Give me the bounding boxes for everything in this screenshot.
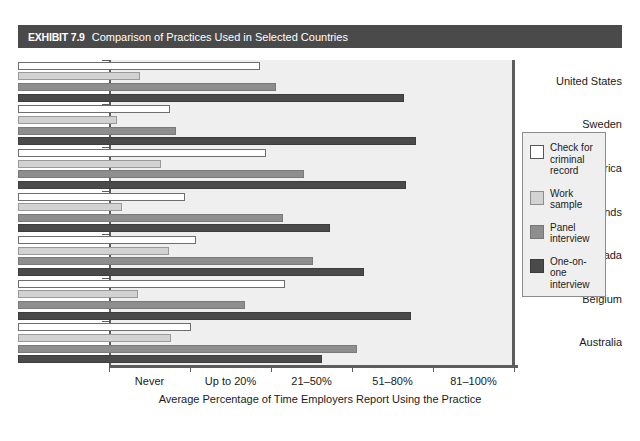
bar (18, 170, 304, 178)
exhibit-page: EXHIBIT 7.9 Comparison of Practices Used… (0, 0, 640, 441)
bar (18, 83, 276, 91)
x-axis-tick-label: 21–50% (271, 375, 352, 387)
bar (18, 355, 322, 363)
legend-swatch-icon (530, 259, 544, 273)
exhibit-number: EXHIBIT 7.9 (28, 31, 85, 43)
x-axis-tick (514, 365, 515, 372)
y-axis-label: Sweden (534, 118, 622, 130)
y-axis-tick (102, 234, 109, 235)
y-axis-tick (102, 278, 109, 279)
legend-item: Check for criminal record (530, 142, 599, 177)
bar (18, 214, 283, 222)
bar (18, 257, 313, 265)
exhibit-caption: Comparison of Practices Used in Selected… (92, 31, 348, 43)
bar (18, 137, 416, 145)
legend-label: Work sample (550, 188, 599, 211)
legend-item: One-on-one interview (530, 256, 599, 291)
bar-group (18, 234, 423, 278)
chart-area: United StatesSwedenSouth AfricaNetherlan… (18, 48, 622, 417)
x-axis-tick (109, 365, 110, 372)
x-axis-tick-label: 81–100% (433, 375, 514, 387)
bar-group (18, 60, 423, 104)
bar-group (18, 147, 423, 191)
y-axis-tick (102, 104, 109, 105)
bar (18, 116, 117, 124)
legend-item: Work sample (530, 188, 599, 211)
chart-legend: Check for criminal recordWork samplePane… (522, 132, 606, 297)
legend-label: Panel interview (550, 222, 599, 245)
y-axis-tick (102, 191, 109, 192)
bar (18, 323, 191, 331)
y-axis-label: Australia (534, 336, 622, 348)
bar (18, 312, 411, 320)
x-axis-tick (271, 365, 272, 372)
bar (18, 203, 122, 211)
legend-item: Panel interview (530, 222, 599, 245)
bar-group (18, 278, 423, 322)
bar (18, 127, 176, 135)
bar (18, 236, 196, 244)
bar (18, 94, 404, 102)
legend-swatch-icon (530, 225, 544, 239)
x-axis-title: Average Percentage of Time Employers Rep… (18, 393, 622, 405)
bar (18, 160, 161, 168)
bar-group (18, 104, 423, 148)
x-axis-tick-label: 51–80% (352, 375, 433, 387)
bar (18, 345, 357, 353)
bar (18, 193, 185, 201)
bar (18, 268, 364, 276)
legend-label: Check for criminal record (550, 142, 599, 177)
exhibit-header: EXHIBIT 7.9 Comparison of Practices Used… (18, 25, 622, 48)
bar (18, 224, 330, 232)
bar (18, 334, 171, 342)
y-axis-tick (102, 321, 109, 322)
bar (18, 181, 406, 189)
bar (18, 62, 260, 70)
bar (18, 105, 170, 113)
legend-swatch-icon (530, 145, 544, 159)
bar (18, 280, 285, 288)
legend-swatch-icon (530, 191, 544, 205)
bar-group (18, 191, 423, 235)
x-axis-tick (352, 365, 353, 372)
x-axis-tick-label: Never (109, 375, 190, 387)
bar (18, 247, 169, 255)
y-axis-tick (102, 60, 109, 61)
legend-label: One-on-one interview (550, 256, 599, 291)
y-axis-tick (102, 147, 109, 148)
bar (18, 290, 138, 298)
x-axis-tick (433, 365, 434, 372)
bar-group (18, 321, 423, 365)
bar (18, 72, 140, 80)
x-axis-line (109, 365, 518, 368)
x-axis-tick (190, 365, 191, 372)
bar (18, 149, 266, 157)
bar (18, 301, 245, 309)
y-axis-label: United States (534, 75, 622, 87)
x-axis-tick-label: Up to 20% (190, 375, 271, 387)
